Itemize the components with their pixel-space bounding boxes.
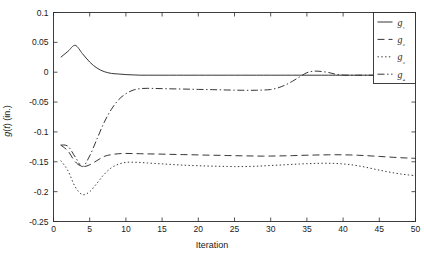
y-tick-label: -0.1 bbox=[34, 127, 49, 137]
x-tick-label: 5 bbox=[87, 224, 92, 234]
x-tick-label: 40 bbox=[338, 224, 347, 234]
y-axis-label: g(t) (in.) bbox=[2, 86, 12, 156]
y-tick-label: 0.1 bbox=[37, 8, 49, 18]
x-tick-label: 25 bbox=[230, 224, 239, 234]
x-tick-label: 50 bbox=[411, 224, 420, 234]
x-tick-label: 45 bbox=[375, 224, 384, 234]
plot-canvas: g₁g₂g₃g₄ bbox=[0, 0, 424, 260]
x-axis-label: Iteration bbox=[0, 240, 424, 250]
x-tick-label: 20 bbox=[194, 224, 203, 234]
y-tick-label: -0.25 bbox=[29, 217, 48, 227]
y-tick-label: 0 bbox=[44, 67, 49, 77]
x-tick-label: 35 bbox=[302, 224, 311, 234]
y-tick-label: -0.05 bbox=[29, 97, 48, 107]
legend: g₁g₂g₃g₄ bbox=[374, 13, 416, 84]
x-tick-label: 10 bbox=[121, 224, 130, 234]
chart-figure: g₁g₂g₃g₄ Iteration g(t) (in.) 0510152025… bbox=[0, 0, 424, 260]
series-line-g4 bbox=[61, 71, 416, 166]
y-tick-label: -0.2 bbox=[34, 187, 49, 197]
series-line-g2 bbox=[61, 145, 416, 167]
y-tick-label: -0.15 bbox=[29, 157, 48, 167]
series-line-g1 bbox=[61, 45, 416, 75]
y-tick-label: 0.05 bbox=[32, 37, 49, 47]
series-line-g3 bbox=[61, 161, 416, 195]
x-tick-label: 30 bbox=[266, 224, 275, 234]
x-tick-label: 15 bbox=[157, 224, 166, 234]
x-tick-label: 0 bbox=[51, 224, 56, 234]
